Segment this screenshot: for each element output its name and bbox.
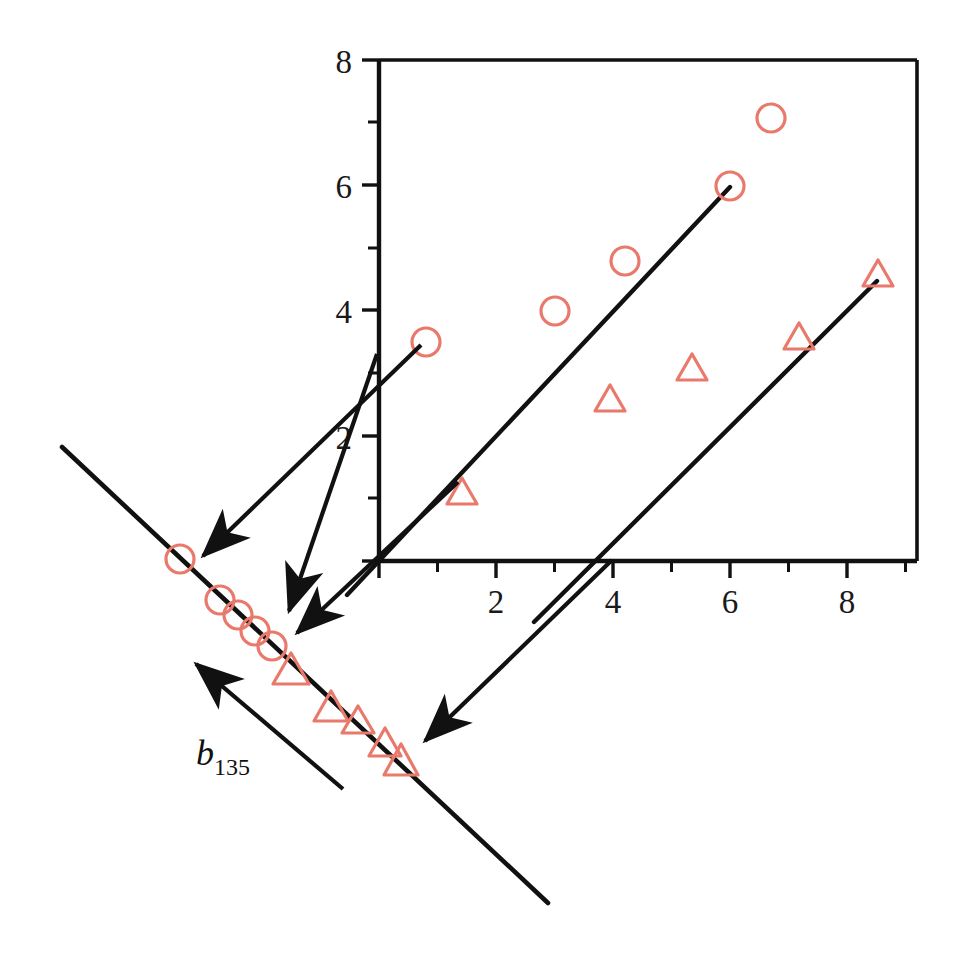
x-tick-label: 6	[722, 584, 739, 620]
y-tick-label: 6	[336, 169, 353, 205]
annotation-arrows	[203, 345, 612, 741]
arrow-to-projected-triangle-cluster	[425, 560, 612, 741]
plot-frame	[379, 60, 917, 561]
data-point-triangle	[677, 354, 707, 380]
data-point-triangle	[595, 385, 625, 411]
y-axis-tick-labels: 8 6 4 2	[336, 44, 353, 456]
x-tick-label: 8	[839, 584, 856, 620]
circle-markers	[412, 104, 785, 356]
x-axis-ticks	[379, 561, 906, 578]
projected-triangle-markers	[273, 653, 418, 775]
y-tick-label: 4	[336, 294, 353, 330]
figure-canvas: 8 6 4 2 2 4 6 8	[0, 0, 964, 958]
data-point-circle	[611, 247, 639, 275]
projection-axis-label-base: b	[196, 733, 214, 773]
projected-triangle	[384, 744, 418, 775]
data-point-circle	[757, 104, 785, 132]
projected-triangle	[314, 691, 348, 721]
data-point-circle	[541, 297, 569, 325]
triangle-fit-line	[534, 281, 877, 622]
triangle-markers	[447, 260, 893, 504]
projection-axis-label-group: b135	[196, 664, 343, 789]
scatter-projection-figure: 8 6 4 2 2 4 6 8	[0, 0, 964, 958]
fit-lines	[347, 187, 877, 622]
x-tick-label: 4	[605, 584, 622, 620]
x-tick-label: 2	[488, 584, 505, 620]
projection-axis-label-subscript: 135	[214, 754, 250, 780]
arrow-to-projected-circle-top	[203, 345, 421, 556]
y-tick-label: 8	[336, 44, 353, 80]
projected-circle	[206, 586, 234, 614]
projection-axis-label: b135	[196, 733, 250, 780]
y-axis-ticks	[362, 60, 379, 561]
